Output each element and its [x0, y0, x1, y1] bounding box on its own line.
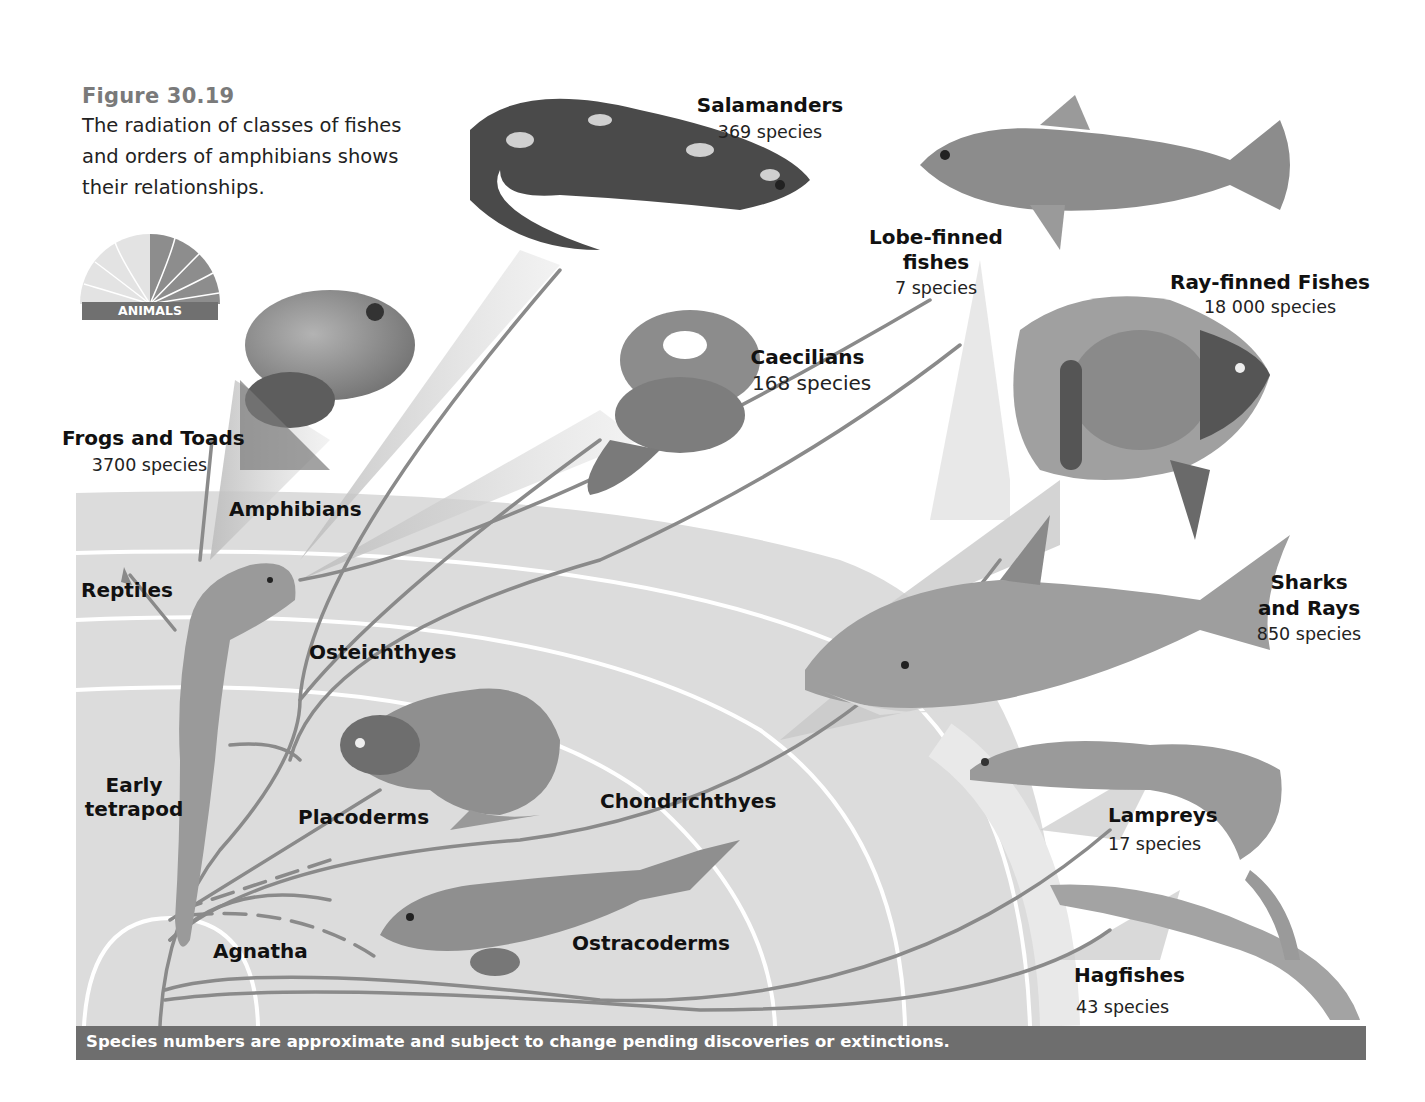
- clade-amphibians: Amphibians: [229, 497, 362, 522]
- clade-osteichthyes: Osteichthyes: [309, 640, 456, 665]
- count-frogs-and-toads: 3700 species: [62, 454, 237, 476]
- clade-chondrichthyes: Chondrichthyes: [600, 789, 776, 814]
- count-ray-finned-fishes: 18 000 species: [1170, 296, 1370, 318]
- clade-reptiles: Reptiles: [81, 578, 173, 603]
- count-sharks-and-rays: 850 species: [1250, 623, 1368, 645]
- animals-logo: ANIMALS: [80, 218, 220, 322]
- logo-label: ANIMALS: [82, 302, 218, 320]
- count-salamanders: 369 species: [695, 121, 845, 143]
- clade-early-tetrapod-line2: tetrapod: [84, 797, 184, 822]
- label-sharks-line1: Sharks: [1250, 570, 1368, 595]
- label-hagfishes: Hagfishes: [1074, 963, 1185, 988]
- clade-agnatha: Agnatha: [213, 939, 308, 964]
- caecilian-illustration: [588, 310, 761, 495]
- label-caecilians: Caecilians: [750, 345, 865, 370]
- label-ray-finned-fishes: Ray-finned Fishes: [1170, 270, 1370, 295]
- count-lobe-finned: 7 species: [866, 277, 1006, 299]
- count-lampreys: 17 species: [1108, 833, 1201, 855]
- clade-placoderms: Placoderms: [298, 805, 429, 830]
- footer-note: Species numbers are approximate and subj…: [86, 1032, 950, 1051]
- label-lobe-finned-line1: Lobe-finned: [866, 225, 1006, 250]
- figure-caption: The radiation of classes of fishes and o…: [82, 110, 432, 203]
- label-sharks-line2: and Rays: [1250, 596, 1368, 621]
- label-lobe-finned-line2: fishes: [866, 250, 1006, 275]
- count-hagfishes: 43 species: [1076, 996, 1169, 1018]
- label-frogs-and-toads: Frogs and Toads: [62, 426, 237, 451]
- count-caecilians: 168 species: [752, 372, 871, 394]
- fan-logo-icon: [80, 218, 220, 304]
- label-lampreys: Lampreys: [1108, 803, 1218, 828]
- figure-title: Figure 30.19: [82, 84, 234, 108]
- label-salamanders: Salamanders: [695, 93, 845, 118]
- clade-early-tetrapod-line1: Early: [84, 773, 184, 798]
- clade-ostracoderms: Ostracoderms: [572, 931, 730, 956]
